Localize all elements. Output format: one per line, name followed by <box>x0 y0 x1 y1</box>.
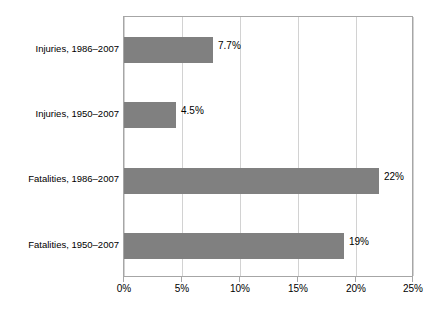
category-label-fatalities-1950-2007: Fatalities, 1950–2007 <box>0 239 119 251</box>
xtick-mark-15 <box>297 277 298 282</box>
value-axis: 0% 5% 10% 15% 20% 25% <box>0 283 441 299</box>
xtick-label-25: 25% <box>403 283 423 295</box>
bar-value-label-injuries-1950-2007: 4.5% <box>181 105 204 117</box>
category-label-fatalities-1986-2007: Fatalities, 1986–2007 <box>0 173 119 185</box>
gridline-25 <box>413 17 414 276</box>
xtick-mark-10 <box>239 277 240 282</box>
bar-fatalities-1986-2007[interactable] <box>124 168 379 194</box>
bar-group-fatalities-1986-2007: 22% <box>124 148 412 213</box>
bar-value-label-fatalities-1950-2007: 19% <box>349 236 369 248</box>
xtick-mark-5 <box>181 277 182 282</box>
category-label-injuries-1950-2007: Injuries, 1950–2007 <box>0 108 119 120</box>
xtick-mark-20 <box>355 277 356 282</box>
bar-value-label-fatalities-1986-2007: 22% <box>384 171 404 183</box>
category-axis: Injuries, 1986–2007 Injuries, 1950–2007 … <box>0 16 119 277</box>
bar-fatalities-1950-2007[interactable] <box>124 233 344 259</box>
bar-group-fatalities-1950-2007: 19% <box>124 213 412 278</box>
xtick-label-0: 0% <box>117 283 131 295</box>
xtick-mark-25 <box>412 277 413 282</box>
bar-injuries-1986-2007[interactable] <box>124 37 213 63</box>
xtick-label-20: 20% <box>346 283 366 295</box>
bar-group-injuries-1986-2007: 7.7% <box>124 17 412 82</box>
bar-value-label-injuries-1986-2007: 7.7% <box>218 40 241 52</box>
bar-injuries-1950-2007[interactable] <box>124 102 176 128</box>
xtick-label-10: 10% <box>230 283 250 295</box>
category-label-injuries-1986-2007: Injuries, 1986–2007 <box>0 43 119 55</box>
xtick-label-15: 15% <box>288 283 308 295</box>
plot-area: 7.7% 4.5% 22% 19% <box>123 16 413 277</box>
xtick-mark-0 <box>123 277 124 282</box>
bar-group-injuries-1950-2007: 4.5% <box>124 82 412 147</box>
xtick-label-5: 5% <box>175 283 189 295</box>
bar-chart: 7.7% 4.5% 22% 19% Injuries, 1986–2007 In… <box>0 0 441 313</box>
